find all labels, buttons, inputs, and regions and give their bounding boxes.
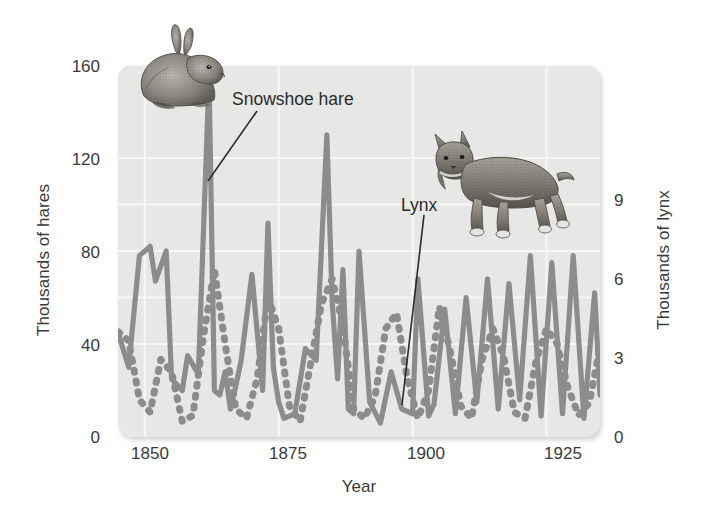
- lynx-illustration-icon: [418, 122, 578, 244]
- y-tick-label-left-40: 40: [44, 336, 100, 356]
- x-tick-label-1850: 1850: [105, 444, 195, 464]
- y-tick-label-left-120: 120: [44, 150, 100, 170]
- y-tick-label-right-6: 6: [614, 270, 670, 290]
- y-tick-label-right-3: 3: [614, 349, 670, 369]
- plot-area: [118, 65, 600, 437]
- population-cycle-figure: Thousands of hares 160 120 80 40 0 Thous…: [0, 0, 714, 517]
- y-tick-label-left-0: 0: [44, 428, 100, 448]
- y-tick-label-right-9: 9: [614, 191, 670, 211]
- plot-svg: [118, 65, 600, 437]
- hare-illustration-icon: [130, 22, 238, 118]
- y-tick-label-right-0: 0: [614, 428, 670, 448]
- x-axis-title: Year: [118, 477, 600, 497]
- x-tick-label-1875: 1875: [243, 444, 333, 464]
- y-tick-label-left-80: 80: [44, 243, 100, 263]
- x-tick-label-1925: 1925: [518, 444, 608, 464]
- leader-line-snowshoe-hare: [200, 107, 260, 187]
- y-tick-label-left-160: 160: [44, 57, 100, 77]
- x-tick-label-1900: 1900: [381, 444, 471, 464]
